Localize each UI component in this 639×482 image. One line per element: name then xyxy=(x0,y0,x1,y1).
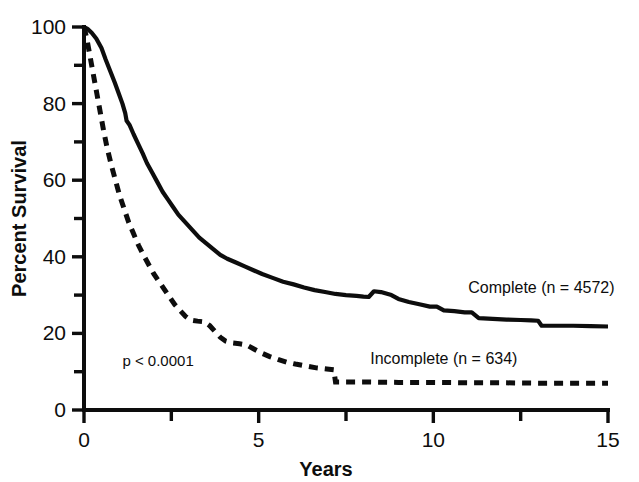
p-value-annotation: p < 0.0001 xyxy=(122,352,193,369)
x-tick-label: 5 xyxy=(253,428,265,451)
survival-chart: 020406080100 051015 Complete (n = 4572) … xyxy=(0,0,639,482)
chart-canvas: 020406080100 051015 Complete (n = 4572) … xyxy=(0,0,639,482)
series-label-incomplete: Incomplete (n = 634) xyxy=(370,350,517,367)
y-tick-label: 100 xyxy=(31,15,66,38)
x-axis-title: Years xyxy=(299,458,352,480)
x-tick-label: 15 xyxy=(596,428,619,451)
series-label-complete: Complete (n = 4572) xyxy=(468,279,614,296)
series-group xyxy=(84,27,608,383)
series-line-incomplete xyxy=(84,27,608,383)
x-axis-tick-labels: 051015 xyxy=(78,428,620,451)
y-tick-label: 80 xyxy=(43,92,66,115)
x-tick-label: 10 xyxy=(422,428,445,451)
x-tick-label: 0 xyxy=(78,428,90,451)
y-tick-label: 0 xyxy=(54,398,66,421)
y-tick-label: 20 xyxy=(43,321,66,344)
y-axis-tick-labels: 020406080100 xyxy=(31,15,66,421)
y-axis-title: Percent Survival xyxy=(8,140,30,297)
y-tick-label: 40 xyxy=(43,245,66,268)
y-tick-label: 60 xyxy=(43,168,66,191)
